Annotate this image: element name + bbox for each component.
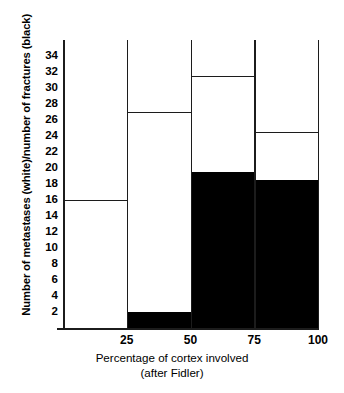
x-axis-title-line1: Percentage of cortex involved [96, 351, 249, 364]
y-tick-20: 20 [45, 162, 58, 174]
black-bar-75-100 [254, 180, 318, 328]
black-bar-25-50 [127, 312, 191, 328]
y-tick-16: 16 [45, 194, 58, 206]
y-tick-4: 4 [52, 290, 58, 302]
y-axis-line [63, 40, 65, 329]
white-bar-top-25-50 [127, 112, 191, 113]
x-tick-75: 75 [248, 334, 261, 346]
white-bar-top-0-25 [63, 200, 127, 201]
y-tick-10: 10 [45, 242, 58, 254]
y-tick-12: 12 [45, 226, 58, 238]
bin-separator-50 [191, 40, 192, 328]
black-bar-50-75 [191, 172, 255, 328]
bin-separator-75 [254, 40, 255, 328]
y-tick-2: 2 [52, 306, 58, 318]
x-axis-title-line2: (after Fidler) [0, 365, 344, 380]
y-axis-title: Number of metastases (white)/number of f… [21, 16, 32, 316]
x-tick-50: 50 [184, 334, 197, 346]
white-bar-top-75-100 [254, 132, 318, 133]
y-tick-26: 26 [45, 114, 58, 126]
y-tick-34: 34 [45, 50, 58, 62]
x-axis-line [57, 328, 319, 330]
bin-separator-25 [127, 40, 128, 328]
chart-figure: Number of metastases (white)/number of f… [0, 0, 344, 393]
y-tick-6: 6 [52, 274, 58, 286]
plot-area: 246810121416182022242628303234 255075100 [63, 40, 318, 328]
white-bar-top-50-75 [191, 76, 255, 77]
bin-separator-100 [318, 40, 319, 328]
y-tick-8: 8 [52, 258, 58, 270]
y-tick-22: 22 [45, 146, 58, 158]
y-tick-30: 30 [45, 82, 58, 94]
x-axis-title: Percentage of cortex involved (after Fid… [0, 350, 344, 380]
y-tick-14: 14 [45, 210, 58, 222]
y-tick-18: 18 [45, 178, 58, 190]
y-tick-28: 28 [45, 98, 58, 110]
y-tick-24: 24 [45, 130, 58, 142]
x-tick-25: 25 [120, 334, 133, 346]
y-tick-32: 32 [45, 66, 58, 78]
x-tick-100: 100 [308, 334, 328, 346]
